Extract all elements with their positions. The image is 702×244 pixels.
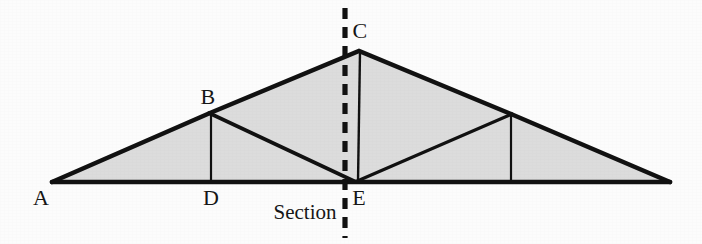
vertex-label-d: D <box>203 187 219 209</box>
vertex-label-c: C <box>353 20 368 42</box>
vertex-label-a: A <box>33 187 49 209</box>
truss-drawing <box>0 0 702 244</box>
truss-diagram-figure: A B C D E Section <box>0 0 702 244</box>
section-label: Section <box>274 202 337 223</box>
truss-shaded-body <box>52 51 670 182</box>
vertex-label-b: B <box>201 86 216 108</box>
vertex-label-e: E <box>352 187 366 209</box>
